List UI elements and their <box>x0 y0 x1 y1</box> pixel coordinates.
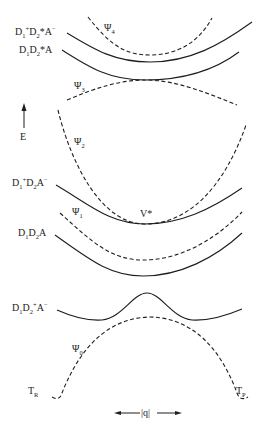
curve-d1-d2p-am <box>57 293 242 320</box>
curve-d1-d2-a <box>55 233 242 276</box>
energy-arrow-icon <box>22 103 27 111</box>
q-arrow-left-icon <box>114 411 121 415</box>
curve-psi3 <box>67 80 237 105</box>
label-psi2: Ψ2 <box>74 136 85 147</box>
label-psi1: Ψ1 <box>72 206 83 217</box>
curve-d1-d2s-a <box>62 50 239 80</box>
label-v-star: V* <box>140 208 152 219</box>
label-energy-axis: E <box>20 131 26 142</box>
label-d1p-d2-am: D1+D2A− <box>12 177 48 188</box>
curve-d1p-d2s-am <box>67 22 252 62</box>
label-d1-d2p-am: D1D2+A− <box>12 302 48 313</box>
label-psi3: Ψ3 <box>74 80 85 91</box>
label-psi4: Ψ4 <box>104 22 115 33</box>
label-t-p: TP <box>236 385 246 396</box>
label-d1-d2s-a: D1D2*A <box>19 44 52 55</box>
label-q-axis: |q| <box>141 407 150 418</box>
energy-diagram <box>0 0 261 437</box>
curve-psi2 <box>58 110 246 224</box>
q-arrow-right-icon <box>175 411 182 415</box>
curve-psi0 <box>52 317 248 399</box>
label-d1-d2-a: D1D2A <box>18 227 46 238</box>
label-t-r: TR <box>28 385 38 396</box>
label-d1p-d2s-am: D1+D2*A− <box>15 26 56 37</box>
label-psi0: Ψ0 <box>72 343 83 354</box>
curve-psi1 <box>60 212 242 260</box>
